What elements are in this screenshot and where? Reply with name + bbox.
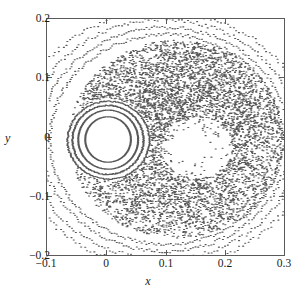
y-axis-tick-label: −0.1 — [6, 191, 50, 202]
x-axis-tick-label: 0.1 — [144, 258, 188, 269]
x-tick-top-0 — [106, 18, 107, 24]
x-tick-0.1 — [166, 250, 167, 256]
x-tick-top-0.2 — [225, 18, 226, 24]
x-axis-tick-label: −0.1 — [24, 258, 68, 269]
x-axis-title: x — [0, 274, 296, 289]
y-axis-tick-label: 0 — [6, 132, 50, 143]
y-axis-tick-label: 0.1 — [6, 72, 50, 83]
x-tick-0.2 — [225, 250, 226, 256]
y-axis-tick-label: 0.2 — [6, 13, 50, 24]
poincare-section-figure: 0.2 0.1 0 −0.1 −0.2 −0.1 0 0.1 0.2 0.3 y… — [0, 0, 296, 297]
x-axis-tick-label: 0 — [84, 258, 128, 269]
y-axis-title: y — [5, 131, 10, 146]
y-tick-right-0.1 — [279, 77, 285, 78]
y-tick-right-0 — [279, 137, 285, 138]
x-tick-0.3 — [284, 250, 285, 256]
x-tick-top-0.1 — [166, 18, 167, 24]
x-axis-tick-label: 0.3 — [262, 258, 296, 269]
plot-frame — [46, 18, 285, 256]
x-axis-tick-label: 0.2 — [203, 258, 247, 269]
scatter-canvas — [47, 19, 284, 255]
x-tick-0 — [106, 250, 107, 256]
y-tick-right--0.1 — [279, 196, 285, 197]
